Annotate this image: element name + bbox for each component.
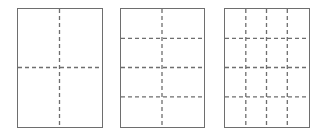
fold-lines: [225, 9, 309, 127]
fold-lines: [121, 9, 204, 127]
panel-2: [120, 8, 205, 128]
fold-lines: [18, 9, 102, 127]
panel-3: [224, 8, 310, 128]
panel-1: [17, 8, 103, 128]
